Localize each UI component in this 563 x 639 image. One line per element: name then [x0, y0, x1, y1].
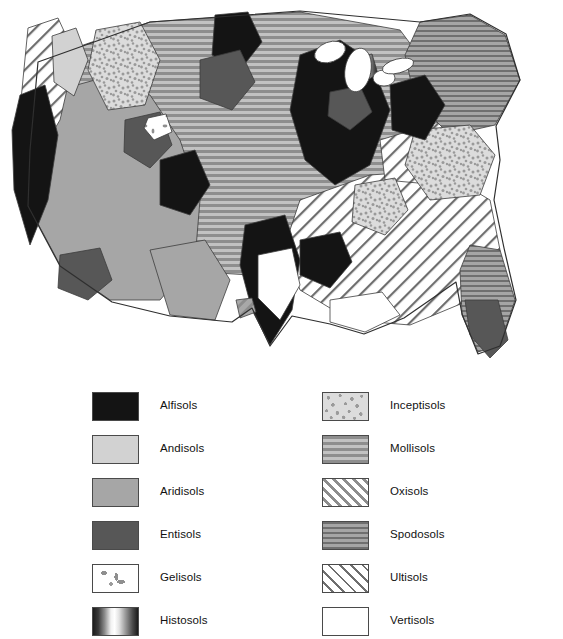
legend-swatch-histosols — [92, 607, 139, 636]
legend-swatch-entisols — [92, 521, 139, 550]
legend-label-ultisols: Ultisols — [390, 571, 428, 584]
legend-label-mollisols: Mollisols — [390, 442, 435, 455]
legend-item-inceptisols[interactable]: Inceptisols — [322, 388, 563, 431]
legend-item-mollisols[interactable]: Mollisols — [322, 431, 563, 474]
legend-swatch-alfisols — [92, 392, 139, 421]
legend-label-histosols: Histosols — [160, 614, 208, 627]
legend-label-aridisols: Aridisols — [160, 485, 204, 498]
legend-item-vertisols[interactable]: Vertisols — [322, 603, 563, 639]
legend-swatch-spodosols — [322, 521, 369, 550]
legend-item-spodosols[interactable]: Spodosols — [322, 517, 563, 560]
legend-swatch-inceptisols — [322, 392, 369, 421]
legend-label-inceptisols: Inceptisols — [390, 399, 445, 412]
legend-swatch-andisols — [92, 435, 139, 464]
soil-map-svg — [0, 0, 563, 380]
legend-swatch-ultisols — [322, 564, 369, 593]
legend-label-vertisols: Vertisols — [390, 614, 434, 627]
legend-label-andisols: Andisols — [160, 442, 204, 455]
legend-label-gelisols: Gelisols — [160, 571, 202, 584]
map-legend: Alfisols Andisols Aridisols Entisols Gel… — [0, 388, 563, 639]
legend-swatch-gelisols — [92, 564, 139, 593]
legend-item-oxisols[interactable]: Oxisols — [322, 474, 563, 517]
legend-swatch-oxisols — [322, 478, 369, 507]
region-oxisols-marker — [236, 298, 256, 318]
legend-label-entisols: Entisols — [160, 528, 201, 541]
legend-label-alfisols: Alfisols — [160, 399, 197, 412]
legend-item-ultisols[interactable]: Ultisols — [322, 560, 563, 603]
legend-label-oxisols: Oxisols — [390, 485, 428, 498]
legend-label-spodosols: Spodosols — [390, 528, 445, 541]
legend-swatch-aridisols — [92, 478, 139, 507]
legend-column-right: Inceptisols Mollisols Oxisols Spodosols … — [322, 388, 563, 639]
soil-map — [0, 0, 563, 380]
legend-swatch-vertisols — [322, 607, 369, 636]
legend-swatch-mollisols — [322, 435, 369, 464]
